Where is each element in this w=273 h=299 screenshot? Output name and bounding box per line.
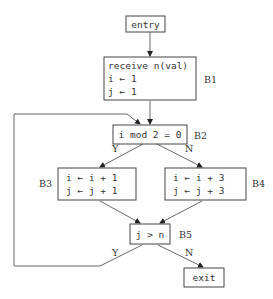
node-b2: i mod 2 = 0 B2 (113, 125, 207, 144)
svg-text:j ← 1: j ← 1 (108, 86, 137, 97)
edge-b3-b5 (100, 201, 140, 223)
edge-label-b5-b2: Y (111, 247, 119, 258)
node-b3: i ← i + 1 j ← j + 1 B3 (39, 168, 136, 200)
control-flow-graph: Y N Y N entry receive n(val) i ← 1 j ← 1… (0, 0, 273, 299)
node-exit: exit (184, 268, 224, 287)
edge-label-b2-b4: N (185, 143, 193, 154)
block-label-b2: B2 (194, 130, 207, 141)
block-label-b5: B5 (179, 229, 192, 240)
svg-text:i ← i + 3: i ← i + 3 (173, 172, 224, 183)
node-b1: receive n(val) i ← 1 j ← 1 B1 (104, 57, 217, 100)
edge-b5-exit (158, 245, 203, 267)
svg-text:exit: exit (193, 272, 216, 283)
svg-text:j ← j + 1: j ← j + 1 (66, 185, 118, 196)
svg-text:i ← i + 1: i ← i + 1 (66, 172, 118, 183)
svg-text:receive n(val): receive n(val) (108, 60, 188, 71)
edge-label-b5-exit: N (185, 247, 193, 258)
svg-text:i mod 2 = 0: i mod 2 = 0 (119, 129, 182, 140)
svg-text:j ← j + 3: j ← j + 3 (173, 185, 224, 196)
svg-text:i ← 1: i ← 1 (108, 73, 137, 84)
node-b4: i ← i + 3 j ← j + 3 B4 (165, 168, 265, 200)
edge-label-b2-b3: Y (111, 143, 119, 154)
node-entry: entry (126, 16, 165, 32)
svg-text:entry: entry (131, 19, 160, 30)
svg-text:j > n: j > n (136, 229, 165, 240)
block-label-b1: B1 (204, 74, 217, 85)
edge-b2-b3 (100, 144, 143, 167)
block-label-b3: B3 (39, 178, 52, 189)
node-b5: j > n B5 (130, 224, 192, 244)
block-label-b4: B4 (252, 178, 265, 189)
edge-b4-b5 (160, 201, 202, 223)
edge-b2-b4 (157, 144, 202, 167)
